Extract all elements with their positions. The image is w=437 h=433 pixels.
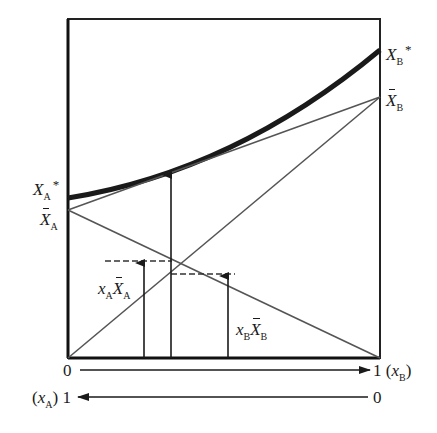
mixture-curve — [68, 50, 380, 198]
xb-xbar-b-line — [68, 97, 380, 358]
axis-b-end: 1 (xB) — [373, 362, 411, 383]
label-xa-bar: XA — [40, 211, 58, 232]
label-xa-star: XA* — [33, 178, 59, 202]
label-xa-xbar-a: xAXA — [98, 280, 130, 301]
axis-a-start: (xA) 1 — [32, 389, 71, 410]
label-xb-star: XB* — [386, 43, 412, 67]
label-xb-xbar-b: xBXB — [236, 321, 267, 342]
figure-caption-clipped — [60, 428, 380, 433]
label-xb-bar: XB — [386, 92, 403, 113]
axis-b-start: 0 — [63, 362, 72, 379]
tangent-line — [68, 97, 380, 210]
axis-a-end: 0 — [373, 389, 382, 406]
